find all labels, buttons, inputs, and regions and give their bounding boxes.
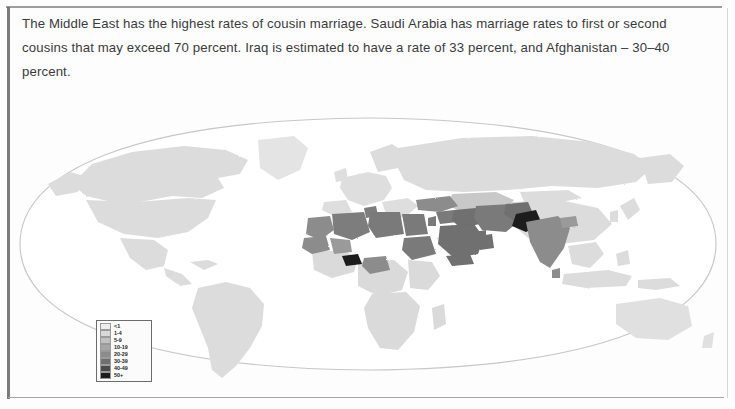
legend-item: 1-4 <box>100 330 149 337</box>
page-border-bottom <box>8 397 724 398</box>
page-border-left <box>7 7 10 399</box>
legend-item: 5-9 <box>100 337 149 344</box>
legend-label: 10-19 <box>114 344 128 351</box>
legend-swatch-icon <box>100 365 111 372</box>
legend-item: <1 <box>100 323 149 330</box>
page-border-right <box>727 8 728 398</box>
legend-swatch-icon <box>100 330 111 337</box>
caption-line-1: The Middle East has the highest rates of… <box>22 12 702 36</box>
legend-swatch-icon <box>100 358 111 365</box>
legend-item: 20-29 <box>100 351 149 358</box>
region-egypt <box>402 214 428 236</box>
map-legend: <1 1-4 5-9 10-19 20-29 30-39 40-49 50+ <box>96 320 152 382</box>
region-korea <box>610 210 618 222</box>
region-new-zealand <box>702 332 714 348</box>
legend-label: 50+ <box>114 372 123 379</box>
legend-label: 40-49 <box>114 365 128 372</box>
legend-swatch-icon <box>100 372 111 379</box>
legend-label: 5-9 <box>114 337 122 344</box>
region-nepal-bangladesh <box>560 216 578 228</box>
page-border-top <box>6 6 722 8</box>
legend-swatch-icon <box>100 344 111 351</box>
legend-swatch-icon <box>100 323 111 330</box>
legend-item: 10-19 <box>100 344 149 351</box>
caption-paragraph: The Middle East has the highest rates of… <box>22 12 702 84</box>
legend-swatch-icon <box>100 337 111 344</box>
legend-item: 30-39 <box>100 358 149 365</box>
caption-line-2: cousins that may exceed 70 percent. Iraq… <box>22 36 702 60</box>
legend-swatch-icon <box>100 351 111 358</box>
caption-line-3: percent. <box>22 60 702 84</box>
legend-label: 20-29 <box>114 351 128 358</box>
legend-item: 40-49 <box>100 365 149 372</box>
legend-item: 50+ <box>100 372 149 379</box>
region-russia <box>396 136 652 192</box>
scanned-page: The Middle East has the highest rates of… <box>0 0 735 409</box>
legend-label: 30-39 <box>114 358 128 365</box>
legend-label: 1-4 <box>114 330 122 337</box>
legend-label: <1 <box>114 323 120 330</box>
